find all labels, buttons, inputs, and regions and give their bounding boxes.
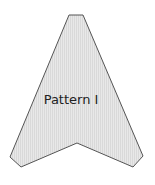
pattern-shape [10, 15, 143, 167]
diagram-canvas: Pattern I [0, 0, 155, 185]
pattern-label: Pattern I [44, 92, 99, 107]
